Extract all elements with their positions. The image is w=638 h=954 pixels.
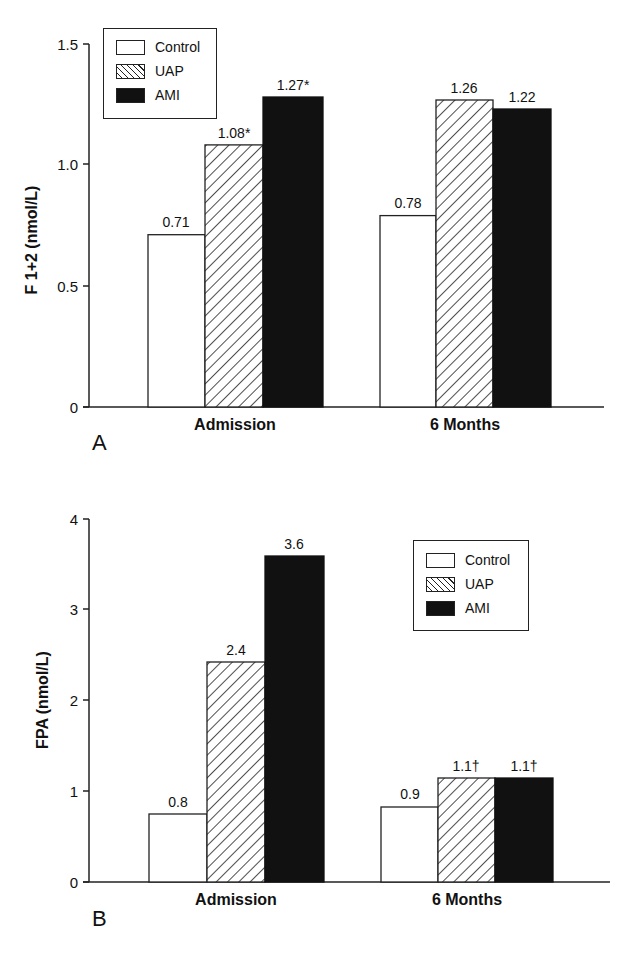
uap-hatched-swatch-icon xyxy=(426,577,455,592)
bar-b-admission-control xyxy=(149,814,207,882)
bar-b-admission-ami xyxy=(265,556,324,882)
panel-b-ytick: 3 xyxy=(70,601,78,618)
control-swatch-icon xyxy=(116,40,145,55)
value-label: 1.1† xyxy=(510,758,537,774)
value-label: 1.22 xyxy=(508,89,535,105)
value-label: 1.08* xyxy=(218,125,251,141)
panel-a-ytick: 1.0 xyxy=(57,156,78,173)
panel-b-legend: Control UAP AMI xyxy=(413,540,529,631)
bar-b-6months-ami xyxy=(495,778,553,882)
panel-b-ytick: 0 xyxy=(70,874,78,891)
bar-a-6months-control xyxy=(380,216,436,407)
panel-a-letter: A xyxy=(92,430,107,456)
panel-a-legend: Control UAP AMI xyxy=(103,28,217,119)
panel-a-category-admission: Admission xyxy=(194,416,276,433)
bar-a-6months-ami xyxy=(493,109,551,407)
ami-solid-swatch-icon xyxy=(426,601,455,616)
value-label: 2.4 xyxy=(226,642,246,658)
panel-a-category-6months: 6 Months xyxy=(430,416,500,433)
panel-b-y-label: FPA (nmol/L) xyxy=(34,651,51,749)
panel-b-category-admission: Admission xyxy=(195,891,277,908)
legend-item-uap: UAP xyxy=(104,59,216,83)
panel-b-category-6months: 6 Months xyxy=(432,891,502,908)
uap-hatched-swatch-icon xyxy=(116,64,145,79)
bar-a-admission-uap xyxy=(205,145,263,407)
legend-item-control: Control xyxy=(414,548,528,572)
panel-a-ytick: 0 xyxy=(70,399,78,416)
bar-b-admission-uap xyxy=(207,662,265,882)
figure-canvas: 1.5 1.0 0.5 0 F 1+2 (nmol/L) 0.71 1.08* … xyxy=(0,0,638,954)
value-label: 3.6 xyxy=(284,536,304,552)
panel-b-ytick: 2 xyxy=(70,692,78,709)
bar-b-6months-uap xyxy=(438,778,495,882)
value-label: 1.26 xyxy=(450,80,477,96)
legend-item-uap: UAP xyxy=(414,572,528,596)
panel-a-ytick: 1.5 xyxy=(57,36,78,53)
value-label: 1.1† xyxy=(452,758,479,774)
value-label: 0.8 xyxy=(168,794,188,810)
ami-solid-swatch-icon xyxy=(116,88,145,103)
legend-item-control: Control xyxy=(104,35,216,59)
value-label: 0.78 xyxy=(394,195,421,211)
bar-a-admission-ami xyxy=(263,97,323,407)
panel-a-ytick: 0.5 xyxy=(57,278,78,295)
legend-item-ami: AMI xyxy=(104,83,216,107)
panel-b-letter: B xyxy=(92,906,107,932)
bar-a-6months-uap xyxy=(436,100,493,407)
control-swatch-icon xyxy=(426,553,455,568)
panel-b-ytick: 1 xyxy=(70,783,78,800)
bar-b-6months-control xyxy=(381,807,438,882)
value-label: 0.71 xyxy=(162,214,189,230)
value-label: 1.27* xyxy=(277,77,310,93)
panel-a-y-label: F 1+2 (nmol/L) xyxy=(23,186,40,295)
panel-b-ytick: 4 xyxy=(70,511,78,528)
bar-a-admission-control xyxy=(148,235,205,407)
value-label: 0.9 xyxy=(400,786,420,802)
legend-item-ami: AMI xyxy=(414,596,528,620)
